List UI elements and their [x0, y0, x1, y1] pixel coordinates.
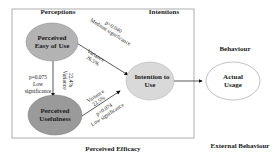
peou-pu-significance-2: significance	[25, 88, 52, 94]
itu-line1: Intention to	[134, 73, 170, 81]
external-behaviour-label: External Behaviour	[211, 142, 270, 150]
intentions-label: Intentions	[149, 8, 180, 16]
peou-pu-p: p=0.075	[29, 74, 47, 80]
node-actual-usage: Actual Usage	[206, 62, 260, 100]
au-line2: Usage	[224, 81, 242, 89]
pu-line1: Perceived	[40, 107, 69, 115]
perceptions-label: Perceptions	[41, 8, 76, 16]
peou-pu-variance: 22.4%	[68, 73, 74, 88]
node-perceived-usefulness: Perceived Usefulness	[28, 95, 82, 135]
tam-diagram: Perceptions Intentions Behaviour Perceiv…	[0, 0, 275, 157]
peou-line1: Perceived	[37, 34, 66, 42]
peou-line2: Easy of Use	[35, 42, 70, 50]
pu-line2: Usefulness	[39, 115, 71, 123]
peou-pu-significance-1: Low	[33, 81, 43, 87]
itu-line2: Use	[145, 81, 156, 89]
behaviour-label: Behaviour	[219, 45, 250, 53]
node-intention-to-use: Intention to Use	[126, 62, 174, 100]
peou-pu-variance-label: Variance	[62, 70, 68, 90]
node-perceived-ease-of-use: Perceived Easy of Use	[26, 23, 78, 61]
perceived-efficacy-label: Perceived Efficacy	[85, 145, 141, 153]
au-line1: Actual	[223, 73, 243, 81]
